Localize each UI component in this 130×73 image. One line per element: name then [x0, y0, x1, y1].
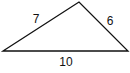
triangle-diagram: 7 6 10 [0, 0, 130, 73]
side-label-right: 6 [107, 14, 114, 28]
side-label-left: 7 [33, 12, 40, 26]
side-label-base: 10 [59, 55, 73, 69]
